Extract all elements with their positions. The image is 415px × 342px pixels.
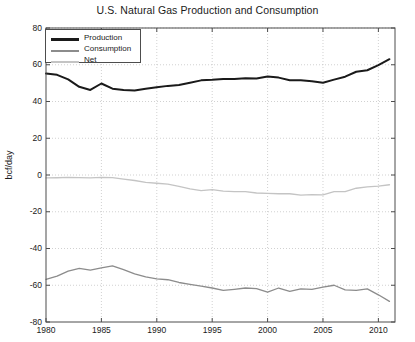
- legend-item-net: Net: [46, 56, 140, 67]
- y-tick-label: 60: [16, 60, 42, 69]
- y-tick-label: 80: [16, 24, 42, 33]
- y-tick-label: 40: [16, 97, 42, 106]
- x-tick-label: 2010: [358, 326, 398, 335]
- legend-label-production: Production: [84, 33, 122, 42]
- x-tick-label: 1995: [192, 326, 232, 335]
- legend-swatch-production: [51, 38, 79, 41]
- x-tick-label: 1985: [81, 326, 121, 335]
- y-tick-label: -20: [16, 207, 42, 216]
- chart-legend: Production Consumption Net: [45, 29, 141, 63]
- legend-swatch-consumption: [51, 50, 79, 52]
- x-tick-label: 2005: [303, 326, 343, 335]
- y-tick-label: 20: [16, 134, 42, 143]
- legend-label-net: Net: [84, 55, 96, 64]
- chart-figure: U.S. Natural Gas Production and Consumpt…: [0, 0, 415, 342]
- x-tick-label: 1990: [137, 326, 177, 335]
- x-tick-label: 2000: [248, 326, 288, 335]
- legend-label-consumption: Consumption: [84, 44, 131, 53]
- series-line-consumption: [46, 266, 389, 301]
- legend-swatch-net: [51, 61, 79, 63]
- y-tick-label: -40: [16, 244, 42, 253]
- series-line-net: [46, 177, 389, 195]
- y-tick-label: 0: [16, 171, 42, 180]
- chart-title: U.S. Natural Gas Production and Consumpt…: [0, 4, 415, 16]
- y-axis-tick-labels: -80-60-40-20020406080: [12, 0, 42, 342]
- y-tick-label: -60: [16, 281, 42, 290]
- x-tick-label: 1980: [26, 326, 66, 335]
